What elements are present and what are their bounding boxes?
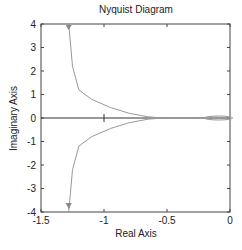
y-tick-label: -2 <box>27 160 36 171</box>
y-tick-label: 4 <box>30 19 36 30</box>
y-tick-label: -3 <box>27 183 36 194</box>
y-tick-label: 0 <box>30 113 36 124</box>
x-tick-label: -0.5 <box>158 215 176 226</box>
y-tick-label: -4 <box>27 207 36 218</box>
y-tick-label: 3 <box>30 42 36 53</box>
direction-arrow-icon <box>66 203 72 209</box>
y-tick-label: -1 <box>27 136 36 147</box>
y-tick-label: 2 <box>30 66 36 77</box>
direction-arrow-icon <box>66 25 72 30</box>
y-tick-label: 1 <box>30 89 36 100</box>
nyquist-curve <box>69 118 230 212</box>
nyquist-plot: -1.5-1-0.5043210-1-2-3-4 <box>0 0 242 250</box>
nyquist-curve <box>69 24 230 118</box>
x-tick-label: -1 <box>100 215 109 226</box>
x-tick-label: 0 <box>227 215 233 226</box>
